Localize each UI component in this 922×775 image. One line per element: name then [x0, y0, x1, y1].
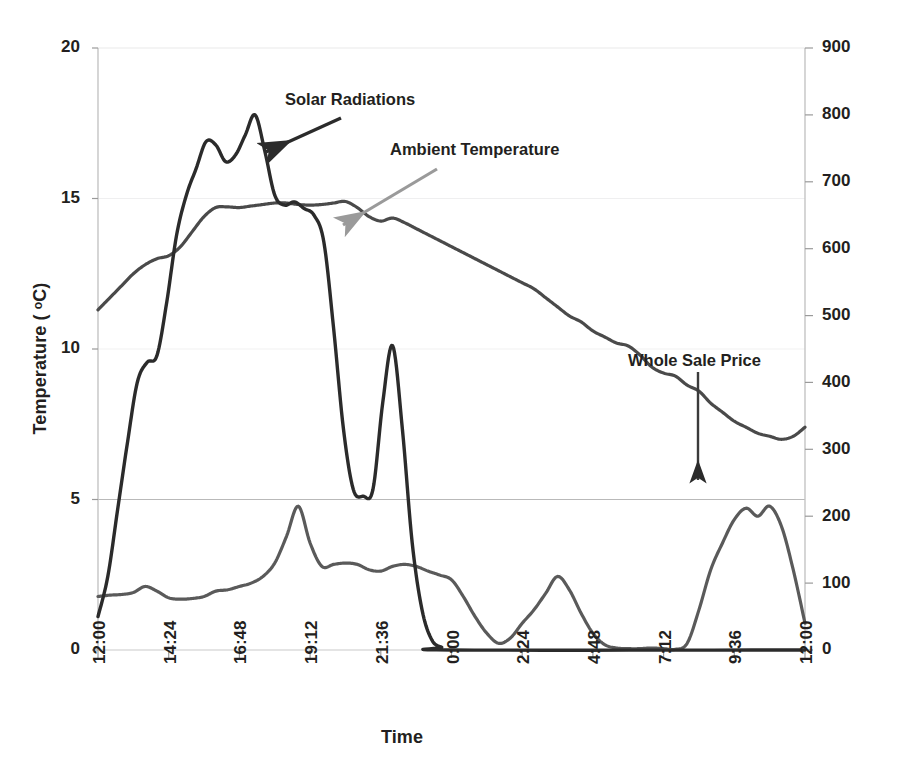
xtick-7: 4:48: [585, 630, 605, 664]
xtick-0: 12:00: [90, 621, 110, 664]
x-axis-title: Time: [352, 727, 452, 748]
xtick-5: 0:00: [444, 630, 464, 664]
xtick-8: 7:12: [656, 630, 676, 664]
ytick-right-700: 700: [822, 171, 882, 191]
ytick-left-15: 15: [20, 188, 80, 208]
ytick-left-20: 20: [20, 37, 80, 57]
ytick-right-100: 100: [822, 573, 882, 593]
xtick-4: 21:36: [373, 621, 393, 664]
ytick-right-500: 500: [822, 305, 882, 325]
ytick-right-900: 900: [822, 37, 882, 57]
xtick-3: 19:12: [302, 621, 322, 664]
series-line-whole-sale-price: [98, 506, 805, 650]
xtick-6: 2:24: [514, 630, 534, 664]
xtick-2: 16:48: [231, 621, 251, 664]
y-axis-left-title: Temperature ( ᵒC): [30, 219, 51, 499]
ytick-right-300: 300: [822, 439, 882, 459]
grid-lines: [98, 48, 805, 650]
ytick-right-400: 400: [822, 372, 882, 392]
annotation-whole-sale-price: Whole Sale Price: [628, 351, 761, 370]
right-axis: [805, 48, 813, 650]
xtick-1: 14:24: [161, 621, 181, 664]
ytick-right-0: 0: [822, 639, 882, 659]
solar-annotation-arrow: [266, 118, 341, 152]
ytick-right-800: 800: [822, 104, 882, 124]
ytick-right-600: 600: [822, 238, 882, 258]
left-axis: [92, 48, 98, 650]
xtick-10: 12:00: [797, 621, 817, 664]
ytick-left-0: 0: [20, 639, 80, 659]
ambient-annotation-arrow: [343, 169, 437, 225]
annotation-solar-radiations: Solar Radiations: [285, 90, 415, 109]
chart-figure: 20 15 10 5 0 900 800 700 600 500 400 300…: [0, 0, 922, 775]
ytick-right-200: 200: [822, 506, 882, 526]
annotation-ambient-temperature: Ambient Temperature: [390, 140, 559, 159]
xtick-9: 9:36: [726, 630, 746, 664]
